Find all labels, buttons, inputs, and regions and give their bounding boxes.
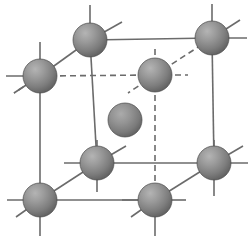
- corner-front-mid-left-body: [80, 146, 114, 180]
- corner-front-mid-right-body: [197, 146, 231, 180]
- corner-back-bottom-mid: back top right inner atom: [138, 58, 172, 92]
- crystal-lattice-figure: back top left corner atomback top right …: [0, 0, 251, 244]
- corner-front-mid-left: front bottom left upper atom: [80, 146, 114, 180]
- atom-body-center-body: [108, 103, 142, 137]
- corner-front-bottom-mid: front bottom middle atom: [138, 183, 172, 217]
- corner-back-top-left-body: [73, 23, 107, 57]
- corner-back-top-right-body: [195, 21, 229, 55]
- corner-front-top-left: front top left corner atom: [23, 59, 57, 93]
- lattice-canvas: back top left corner atomback top right …: [0, 0, 251, 244]
- corner-back-top-right: back top right corner atom: [195, 21, 229, 55]
- atom-body-center: body center atom: [108, 103, 142, 137]
- corner-front-top-left-body: [23, 59, 57, 93]
- corner-front-mid-right: front bottom right atom: [197, 146, 231, 180]
- corner-front-bottom-left-body: [23, 183, 57, 217]
- corner-front-bottom-mid-body: [138, 183, 172, 217]
- corner-back-bottom-mid-body: [138, 58, 172, 92]
- corner-back-top-left: back top left corner atom: [73, 23, 107, 57]
- corner-front-bottom-left: front bottom left atom: [23, 183, 57, 217]
